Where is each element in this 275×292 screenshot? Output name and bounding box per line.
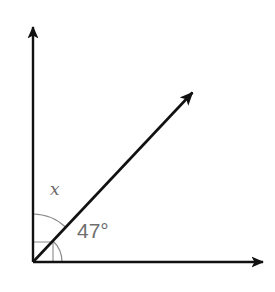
angle-diagram-figure: x 47° [0, 0, 275, 292]
unknown-angle-label: x [50, 181, 60, 198]
unknown-angle-arc [33, 214, 66, 227]
known-angle-arc [53, 241, 62, 262]
diagonal-ray [33, 93, 193, 263]
angle-diagram-canvas [0, 0, 275, 292]
known-angle-label: 47° [77, 220, 109, 241]
